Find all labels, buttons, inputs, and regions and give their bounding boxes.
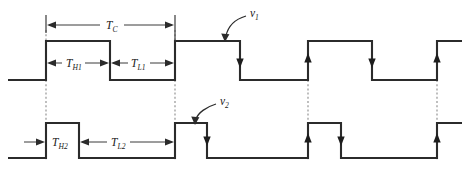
- callout-v1-label-sub: 1: [255, 13, 259, 22]
- dimension-th1-label-sub: H1: [71, 63, 81, 72]
- callout-v2-label-sub: 2: [225, 101, 229, 110]
- dimension-tl2: TL2: [80, 136, 174, 151]
- dimension-tl2-label-sub: L2: [116, 142, 125, 151]
- dimension-tl1-arrow-right: [165, 60, 174, 67]
- dimension-th1-arrow-left: [47, 60, 56, 67]
- dimension-th2-label: TH2: [52, 136, 68, 151]
- dimension-tc: TC: [46, 15, 175, 41]
- dimension-tc-arrow-left: [47, 22, 56, 29]
- v1-edge-arrow-down-2: [368, 59, 375, 69]
- v1-edge-arrow-up-1: [304, 53, 311, 63]
- dimension-tl1-label: TL1: [131, 57, 145, 72]
- timing-diagram-canvas: TC TH1 TL1 TH2: [0, 0, 467, 174]
- dashed-guides: [46, 30, 437, 160]
- dimension-tl2-arrow-right: [165, 139, 174, 146]
- timing-diagram-figure: TC TH1 TL1 TH2: [0, 0, 467, 174]
- dimension-th1-label: TH1: [66, 57, 82, 72]
- v2-edge-arrow-up-2: [433, 133, 440, 143]
- callout-v1-label: v1: [250, 7, 259, 22]
- dimension-th2-label-sub: H2: [57, 142, 67, 151]
- dimension-th1: TH1: [47, 57, 109, 72]
- callout-v1: v1: [221, 7, 259, 42]
- waveform-v1: [8, 41, 462, 80]
- v2-edge-arrow-down-2: [337, 137, 344, 147]
- dimension-tc-arrow-right: [165, 22, 174, 29]
- dimension-tl1-label-sub: L1: [136, 63, 145, 72]
- waveform-v1-path: [8, 41, 462, 80]
- dimension-tl2-label: TL2: [111, 136, 126, 151]
- dimension-th1-arrow-right: [100, 60, 109, 67]
- dimension-tl2-arrow-left: [80, 139, 89, 146]
- callout-v2: v2: [191, 95, 229, 125]
- dimension-tc-label-sub: C: [112, 25, 118, 34]
- waveform-v2-path: [8, 123, 462, 158]
- dimension-tc-label: TC: [106, 19, 118, 34]
- dimension-th2-arrow-right: [36, 139, 45, 146]
- v2-edge-arrow-up-1: [304, 133, 311, 143]
- v2-edge-arrow-down-1: [203, 137, 210, 147]
- v1-edge-arrow-down-1: [236, 59, 243, 69]
- dimension-tl1: TL1: [111, 57, 174, 72]
- waveform-v2: [8, 123, 462, 158]
- callout-v2-leader: [196, 104, 216, 119]
- dimension-tl1-arrow-left: [111, 60, 120, 67]
- callout-v2-label: v2: [220, 95, 229, 110]
- v1-edge-arrow-up-2: [433, 53, 440, 63]
- callout-v1-leader: [226, 16, 246, 36]
